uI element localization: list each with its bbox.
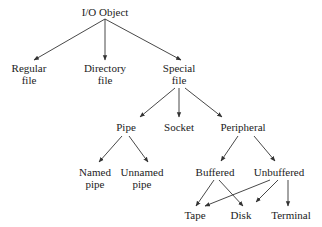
node-unbuffered: Unbuffered xyxy=(254,166,305,178)
node-label: Pipe xyxy=(116,121,136,133)
node-label: file xyxy=(12,74,47,86)
node-tape: Tape xyxy=(184,209,205,221)
node-label: Terminal xyxy=(271,209,311,221)
node-peripheral: Peripheral xyxy=(220,121,265,133)
edge-arrow-pipe-to-named xyxy=(99,136,122,162)
edge-arrow-pipe-to-unnamed xyxy=(129,136,148,162)
node-label: Special xyxy=(163,62,195,74)
node-label: Buffered xyxy=(196,166,235,178)
io-object-hierarchy-diagram: I/O Object Regular file Directory file S… xyxy=(0,0,322,227)
node-label: Peripheral xyxy=(220,121,265,133)
edge-arrow-unbuffered-to-tape xyxy=(205,180,270,206)
node-disk: Disk xyxy=(231,209,252,221)
node-label: Named xyxy=(79,166,111,178)
node-label: Directory xyxy=(84,62,126,74)
edge-arrow-buffered-to-tape xyxy=(196,180,214,206)
edge-arrow-unbuffered-to-disk xyxy=(256,180,278,202)
node-label: Socket xyxy=(164,121,194,133)
node-label: pipe xyxy=(121,178,164,190)
node-label: file xyxy=(84,74,126,86)
edge-arrow-io-to-special xyxy=(105,19,181,60)
edges-layer xyxy=(0,0,322,227)
node-socket: Socket xyxy=(164,121,194,133)
edge-arrow-special-to-pipe xyxy=(140,88,175,117)
node-label: pipe xyxy=(79,178,111,190)
node-label: Disk xyxy=(231,209,252,221)
node-label: I/O Object xyxy=(82,6,129,18)
node-label: Unnamed xyxy=(121,166,164,178)
node-terminal: Terminal xyxy=(271,209,311,221)
edge-arrow-buffered-to-disk xyxy=(219,180,243,206)
node-pipe: Pipe xyxy=(116,121,136,133)
node-label: Tape xyxy=(184,209,205,221)
edge-arrow-peripheral-to-unbuffered xyxy=(254,136,275,161)
node-special-file: Special file xyxy=(163,62,195,86)
node-label: file xyxy=(163,74,195,86)
node-regular-file: Regular file xyxy=(12,62,47,86)
edge-arrow-peripheral-to-buffered xyxy=(221,136,238,161)
node-unnamed-pipe: Unnamed pipe xyxy=(121,166,164,190)
node-buffered: Buffered xyxy=(196,166,235,178)
node-directory-file: Directory file xyxy=(84,62,126,86)
edge-arrow-special-to-peripheral xyxy=(185,88,222,117)
node-label: Regular xyxy=(12,62,47,74)
node-label: Unbuffered xyxy=(254,166,305,178)
node-named-pipe: Named pipe xyxy=(79,166,111,190)
edge-arrow-io-to-regular xyxy=(34,19,105,60)
node-io-object: I/O Object xyxy=(82,6,129,18)
